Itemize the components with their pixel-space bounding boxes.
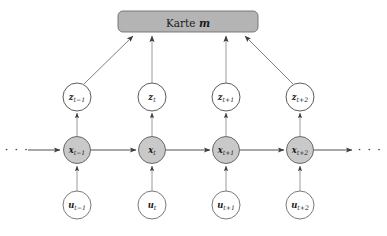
u-node-t-plus-1[interactable]: ut+1 — [212, 191, 240, 219]
dbn-canvas: Karte m zt−1 zt zt+1 — [0, 0, 387, 236]
u-node-t-plus-2[interactable]: ut+2 — [286, 191, 314, 219]
z-node-t-plus-1[interactable]: zt+1 — [212, 83, 240, 111]
u-node-t-minus-1[interactable]: ut−1 — [63, 191, 91, 219]
x-node-t-minus-1[interactable]: xt−1 — [64, 137, 91, 164]
edges-observation-to-map — [84, 36, 293, 84]
x-node-sub: t−1 — [74, 149, 86, 156]
x-node-sub: t+2 — [297, 149, 309, 156]
edge-z-to-map-4 — [245, 36, 293, 84]
x-node-sub: t+1 — [223, 149, 235, 156]
u-node-sub: t+1 — [223, 204, 235, 211]
control-nodes: ut−1 ut ut+1 ut+2 — [63, 191, 314, 219]
map-node-label: Karte m — [166, 17, 210, 29]
x-node-t[interactable]: xt — [139, 137, 166, 164]
u-node-sub: t−1 — [74, 204, 86, 211]
u-node-sub: t+2 — [297, 204, 309, 211]
z-node-t[interactable]: zt — [138, 83, 166, 111]
ellipsis-right: · · · — [358, 144, 382, 157]
x-node-t-plus-2[interactable]: xt+2 — [287, 137, 314, 164]
z-node-t-plus-2[interactable]: zt+2 — [286, 83, 314, 111]
dbn-figure: Karte m zt−1 zt zt+1 — [0, 0, 387, 236]
observation-nodes: zt−1 zt zt+1 zt+2 — [63, 83, 314, 111]
z-node-sub: t+1 — [223, 96, 235, 103]
z-node-t-minus-1[interactable]: zt−1 — [63, 83, 91, 111]
z-node-sub: t−1 — [74, 96, 86, 103]
map-node-label-text: Karte — [166, 17, 196, 29]
map-node[interactable]: Karte m — [118, 11, 258, 32]
x-node-t-plus-1[interactable]: xt+1 — [213, 137, 240, 164]
edge-z-to-map-1 — [84, 36, 133, 84]
map-node-label-var: m — [199, 17, 210, 29]
z-node-sub: t+2 — [297, 96, 309, 103]
u-node-t[interactable]: ut — [138, 191, 166, 219]
edges-control-to-state — [77, 166, 300, 191]
edges-state-to-observation — [77, 113, 300, 136]
ellipsis-left: · · · — [5, 144, 29, 157]
